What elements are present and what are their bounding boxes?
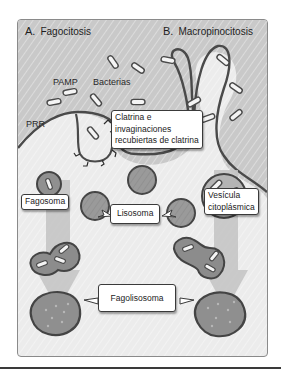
panel-a-letter: A. [25, 25, 35, 37]
clathrin-line-3: recubiertas de clatrina [115, 135, 199, 147]
vesicle-line-1: Vesícula [208, 190, 255, 202]
panel-b-title: Macropinocitosis [178, 26, 252, 37]
panel-a-heading: A.Fagocitosis [25, 25, 91, 37]
diagram-panel: A.Fagocitosis B.Macropinocitosis PAMP Ba… [17, 19, 268, 357]
vesicle-line-2: citoplásmica [208, 202, 255, 214]
callout-phagosome: Fagosoma [21, 194, 69, 210]
label-pamp: PAMP [53, 77, 78, 87]
callout-clathrin: Clatrina e invaginaciones recubiertas de… [111, 110, 203, 149]
lysosome-label: Lisosoma [117, 208, 153, 218]
phagolysosome-label: Fagolisosoma [111, 293, 164, 303]
callout-lysosome: Lisosoma [110, 204, 160, 224]
phagolysosome-right [195, 292, 245, 336]
label-bacteria: Bacterias [93, 77, 131, 87]
callout-phagolysosome: Fagolisosoma [98, 284, 176, 312]
figure-bottom-rule [0, 367, 281, 369]
clathrin-line-2: invaginaciones [115, 124, 199, 136]
clathrin-line-1: Clatrina e [115, 112, 199, 124]
panel-b-heading: B.Macropinocitosis [163, 25, 253, 37]
callout-cytoplasmic-vesicle: Vesícula citoplásmica [204, 188, 259, 215]
phagosome-vesicle [37, 172, 61, 196]
panel-a-title: Fagocitosis [40, 26, 91, 37]
phagosome-label: Fagosoma [25, 196, 65, 206]
label-prr: PRR [26, 119, 45, 129]
phagolysosome-left [31, 292, 80, 335]
panel-b-letter: B. [163, 25, 173, 37]
